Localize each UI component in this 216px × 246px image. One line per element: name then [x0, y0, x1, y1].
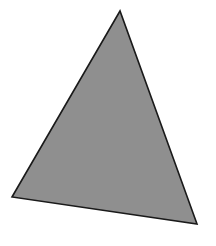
triangle-shape	[12, 11, 197, 224]
triangle-figure	[0, 0, 216, 246]
diagram-canvas	[0, 0, 216, 246]
